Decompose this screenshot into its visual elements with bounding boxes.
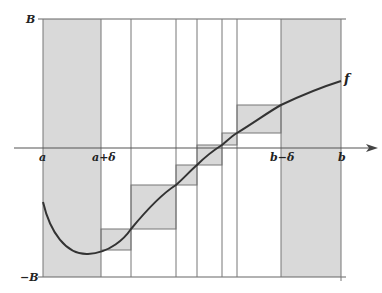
- label-b-minus-delta: b−δ: [270, 151, 294, 164]
- oscillation-rects: [101, 105, 281, 250]
- label-lower-bound: −B: [20, 271, 39, 284]
- label-a: a: [39, 151, 46, 164]
- osc-rect-1: [101, 229, 131, 250]
- label-upper-bound: B: [25, 13, 35, 26]
- label-function-f: f: [343, 71, 352, 86]
- label-b: b: [338, 151, 346, 164]
- riemann-diagram: B −B a a+δ b−δ b f: [0, 0, 382, 293]
- label-a-plus-delta: a+δ: [92, 151, 116, 164]
